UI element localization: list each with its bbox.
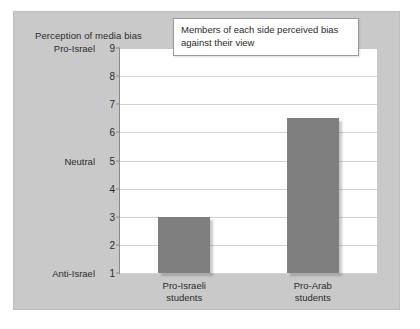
- ytick-mark-2: [116, 244, 120, 245]
- ytick-label-4: 4: [109, 183, 115, 194]
- annotation-callout: Members of each side perceived bias agai…: [173, 18, 359, 56]
- ytick-mark-3: [116, 216, 120, 217]
- xlabel-line: students: [166, 292, 202, 303]
- xlabel-line: Pro-Israeli: [163, 280, 206, 291]
- y-scale-name-anti-israel: Anti-Israel: [52, 268, 95, 279]
- gridline-7: [120, 104, 377, 105]
- ytick-mark-7: [116, 104, 120, 105]
- ytick-label-6: 6: [109, 127, 115, 138]
- ytick-label-8: 8: [109, 71, 115, 82]
- ytick-label-2: 2: [109, 239, 115, 250]
- ytick-mark-1: [116, 273, 120, 274]
- ytick-label-5: 5: [109, 155, 115, 166]
- xaxis-label-1: Pro-Arabstudents: [294, 280, 332, 304]
- ytick-mark-4: [116, 188, 120, 189]
- ytick-label-3: 3: [109, 211, 115, 222]
- xaxis-label-0: Pro-Israelistudents: [163, 280, 206, 304]
- ytick-mark-6: [116, 132, 120, 133]
- ytick-mark-5: [116, 160, 120, 161]
- chart-figure: Perception of media bias 123456789Pro-Is…: [13, 11, 400, 310]
- ytick-label-9: 9: [109, 43, 115, 54]
- y-scale-name-pro-israel: Pro-Israel: [54, 43, 95, 54]
- ytick-label-7: 7: [109, 99, 115, 110]
- ytick-mark-8: [116, 76, 120, 77]
- xlabel-line: students: [295, 292, 331, 303]
- gridline-1: [120, 273, 377, 274]
- bar-pro-israeli-students: [158, 217, 210, 273]
- ytick-label-1: 1: [109, 268, 115, 279]
- gridline-8: [120, 76, 377, 77]
- y-scale-name-neutral: Neutral: [64, 155, 95, 166]
- bar-pro-arab-students: [287, 118, 339, 273]
- ytick-mark-9: [116, 48, 120, 49]
- plot-area: 123456789Pro-IsraelNeutralAnti-IsraelPro…: [119, 48, 377, 274]
- xlabel-line: Pro-Arab: [294, 280, 332, 291]
- chart-title: Perception of media bias: [35, 30, 142, 41]
